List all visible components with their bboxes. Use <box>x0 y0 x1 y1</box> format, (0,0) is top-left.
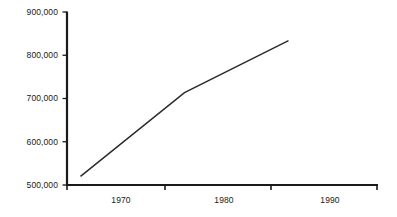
y-tick-label-900000: 900,000 <box>2 7 58 17</box>
y-tick-label-500000: 500,000 <box>2 180 58 190</box>
line-chart: 900,000 800,000 700,000 600,000 500,000 … <box>0 0 397 217</box>
y-tick-label-700000: 700,000 <box>2 93 58 103</box>
chart-plot-area <box>0 0 397 217</box>
x-tick-label-1980: 1980 <box>204 195 244 205</box>
data-series-line <box>81 41 289 177</box>
x-tick-label-1970: 1970 <box>101 195 141 205</box>
y-tick-label-800000: 800,000 <box>2 50 58 60</box>
x-tick-label-1990: 1990 <box>310 195 350 205</box>
y-tick-label-600000: 600,000 <box>2 137 58 147</box>
